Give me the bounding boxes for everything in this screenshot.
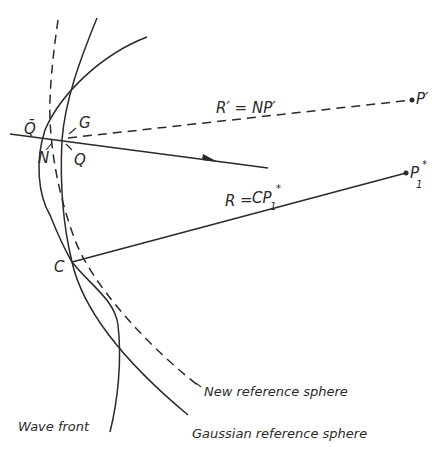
label-q-bar: Q̄ bbox=[24, 119, 36, 138]
label-new-reference-sphere: New reference sphere bbox=[204, 384, 348, 399]
leader-q bbox=[66, 144, 72, 150]
label-n: N bbox=[38, 149, 49, 167]
equation-r-sub: 1 bbox=[270, 201, 276, 212]
diagram-canvas: Q̄ G N Q C P′ P 1 * R′ = NP′ R = CP 1 * … bbox=[0, 0, 442, 460]
wave-front-curve bbox=[39, 37, 147, 432]
equation-r-eq: = bbox=[240, 191, 253, 209]
equation-r-prime-text: R′ = NP′ bbox=[216, 99, 276, 117]
label-wave-front: Wave front bbox=[18, 419, 90, 434]
label-gaussian-reference-sphere: Gaussian reference sphere bbox=[192, 426, 367, 441]
arrow-icon bbox=[202, 154, 218, 162]
gaussian-reference-sphere-curve bbox=[61, 18, 188, 415]
equation-r-prime: R′ = NP′ bbox=[216, 99, 276, 117]
radius-r-line bbox=[72, 173, 406, 262]
label-q: Q bbox=[74, 151, 86, 169]
leader-new-ref bbox=[196, 383, 201, 387]
point-p-prime bbox=[410, 98, 415, 103]
equation-r-left: R bbox=[225, 192, 235, 210]
label-p1-star: P 1 * bbox=[410, 159, 427, 190]
label-p1-star-sup: * bbox=[422, 159, 427, 170]
equation-r: R = CP 1 * bbox=[225, 183, 281, 212]
leader-g bbox=[69, 128, 76, 134]
label-p-prime: P′ bbox=[416, 90, 429, 108]
label-g: G bbox=[79, 114, 91, 132]
point-p1-star bbox=[404, 171, 409, 176]
label-c: C bbox=[54, 258, 65, 276]
new-reference-sphere-curve bbox=[50, 20, 200, 387]
label-p1-star-sub: 1 bbox=[416, 179, 422, 190]
equation-r-sup: * bbox=[276, 183, 281, 194]
